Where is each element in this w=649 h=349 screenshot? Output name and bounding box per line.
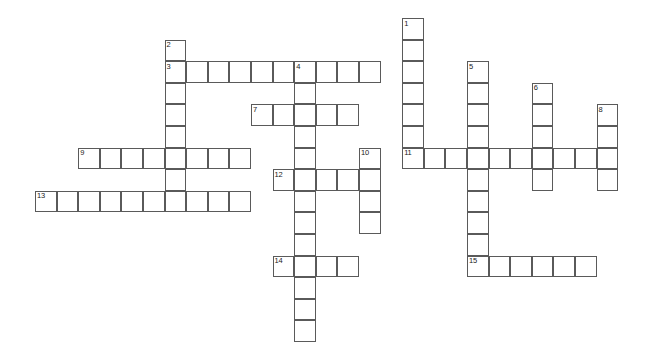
crossword-cell[interactable]: [273, 61, 295, 83]
crossword-cell[interactable]: [57, 191, 79, 213]
crossword-cell[interactable]: [294, 126, 316, 148]
crossword-cell[interactable]: [165, 191, 187, 213]
crossword-cell[interactable]: [467, 83, 489, 105]
crossword-cell[interactable]: [402, 83, 424, 105]
crossword-cell[interactable]: [229, 61, 251, 83]
crossword-cell[interactable]: [553, 148, 575, 170]
crossword-cell[interactable]: [143, 191, 165, 213]
crossword-cell[interactable]: [165, 126, 187, 148]
crossword-cell[interactable]: [337, 256, 359, 278]
crossword-cell[interactable]: [467, 212, 489, 234]
crossword-cell[interactable]: [467, 148, 489, 170]
crossword-cell[interactable]: [510, 148, 532, 170]
crossword-cell[interactable]: [273, 104, 295, 126]
crossword-cell[interactable]: [251, 104, 273, 126]
crossword-cell[interactable]: [78, 148, 100, 170]
crossword-cell[interactable]: [78, 191, 100, 213]
crossword-cell[interactable]: [294, 320, 316, 342]
crossword-cell[interactable]: [359, 61, 381, 83]
crossword-cell[interactable]: [402, 40, 424, 62]
crossword-cell[interactable]: [467, 234, 489, 256]
crossword-cell[interactable]: [294, 256, 316, 278]
crossword-cell[interactable]: [229, 191, 251, 213]
crossword-cell[interactable]: [532, 148, 554, 170]
crossword-cell[interactable]: [510, 256, 532, 278]
crossword-cell[interactable]: [165, 61, 187, 83]
crossword-cell[interactable]: [359, 148, 381, 170]
crossword-cell[interactable]: [402, 104, 424, 126]
crossword-cell[interactable]: [294, 191, 316, 213]
crossword-cell[interactable]: [316, 169, 338, 191]
crossword-cell[interactable]: [467, 126, 489, 148]
crossword-cell[interactable]: [165, 148, 187, 170]
crossword-cell[interactable]: [424, 148, 446, 170]
crossword-cell[interactable]: [208, 148, 230, 170]
crossword-cell[interactable]: [273, 256, 295, 278]
crossword-cell[interactable]: [532, 169, 554, 191]
crossword-cell[interactable]: [532, 256, 554, 278]
crossword-grid[interactable]: 111234567891012131415: [0, 0, 649, 349]
crossword-cell[interactable]: [229, 148, 251, 170]
crossword-cell[interactable]: [121, 191, 143, 213]
crossword-cell[interactable]: [316, 61, 338, 83]
crossword-cell[interactable]: [337, 104, 359, 126]
crossword-cell[interactable]: [294, 299, 316, 321]
crossword-cell[interactable]: [294, 212, 316, 234]
crossword-cell[interactable]: [597, 148, 619, 170]
crossword-cell[interactable]: [467, 256, 489, 278]
crossword-cell[interactable]: [532, 104, 554, 126]
crossword-cell[interactable]: [402, 61, 424, 83]
crossword-cell[interactable]: [337, 61, 359, 83]
crossword-cell[interactable]: [100, 191, 122, 213]
crossword-cell[interactable]: [35, 191, 57, 213]
crossword-cell[interactable]: [294, 169, 316, 191]
crossword-cell[interactable]: [597, 104, 619, 126]
crossword-cell[interactable]: [316, 104, 338, 126]
crossword-cell[interactable]: [165, 83, 187, 105]
crossword-cell[interactable]: [294, 61, 316, 83]
crossword-cell[interactable]: [294, 104, 316, 126]
crossword-cell[interactable]: [273, 169, 295, 191]
crossword-cell[interactable]: [597, 126, 619, 148]
crossword-cell[interactable]: [359, 212, 381, 234]
crossword-cell[interactable]: [251, 61, 273, 83]
crossword-cell[interactable]: [402, 18, 424, 40]
crossword-cell[interactable]: [445, 148, 467, 170]
crossword-cell[interactable]: [100, 148, 122, 170]
crossword-cell[interactable]: [402, 148, 424, 170]
crossword-cell[interactable]: [186, 191, 208, 213]
crossword-cell[interactable]: [186, 61, 208, 83]
crossword-cell[interactable]: [489, 148, 511, 170]
crossword-cell[interactable]: [337, 169, 359, 191]
crossword-cell[interactable]: [294, 277, 316, 299]
crossword-cell[interactable]: [467, 104, 489, 126]
crossword-cell[interactable]: [575, 148, 597, 170]
crossword-cell[interactable]: [165, 104, 187, 126]
crossword-cell[interactable]: [532, 83, 554, 105]
crossword-cell[interactable]: [532, 126, 554, 148]
crossword-cell[interactable]: [467, 169, 489, 191]
crossword-cell[interactable]: [165, 40, 187, 62]
crossword-cell[interactable]: [316, 256, 338, 278]
crossword-cell[interactable]: [165, 169, 187, 191]
crossword-cell[interactable]: [294, 83, 316, 105]
crossword-cell[interactable]: [294, 234, 316, 256]
crossword-cell[interactable]: [489, 256, 511, 278]
crossword-cell[interactable]: [359, 169, 381, 191]
crossword-cell[interactable]: [186, 148, 208, 170]
crossword-cell[interactable]: [553, 256, 575, 278]
crossword-cell[interactable]: [467, 191, 489, 213]
crossword-cell[interactable]: [208, 191, 230, 213]
crossword-cell[interactable]: [359, 191, 381, 213]
crossword-cell[interactable]: [294, 148, 316, 170]
crossword-cell[interactable]: [121, 148, 143, 170]
crossword-cell[interactable]: [597, 169, 619, 191]
crossword-cell[interactable]: [208, 61, 230, 83]
crossword-cell[interactable]: [467, 61, 489, 83]
crossword-cell[interactable]: [575, 256, 597, 278]
crossword-cell[interactable]: [143, 148, 165, 170]
crossword-cell[interactable]: [402, 126, 424, 148]
